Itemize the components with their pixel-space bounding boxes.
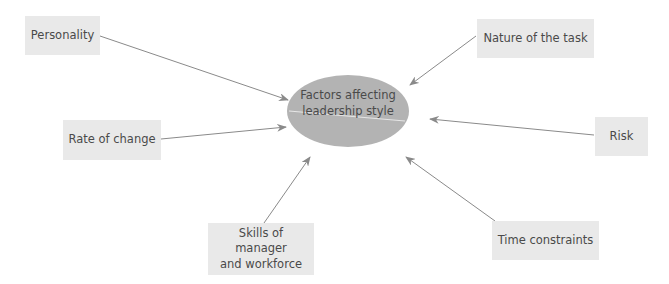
- center-label-line2: leadership style: [298, 104, 398, 120]
- factor-label-line2: and workforce: [220, 257, 302, 273]
- arrow-time-constraints: [406, 157, 495, 221]
- factor-label: Nature of the task: [483, 31, 587, 47]
- center-label-line1: Factors affecting: [298, 88, 398, 104]
- center-label: Factors affecting leadership style: [298, 88, 398, 119]
- arrow-skills: [264, 157, 310, 223]
- arrow-personality: [100, 36, 288, 100]
- factor-label: Risk: [610, 129, 634, 145]
- factor-personality: Personality: [25, 16, 100, 55]
- factor-skills: Skills of manager and workforce: [208, 223, 314, 275]
- factor-label-line1: Skills of manager: [212, 226, 310, 257]
- factor-time-constraints: Time constraints: [492, 221, 599, 260]
- factor-label: Time constraints: [498, 233, 594, 249]
- factor-nature-of-task: Nature of the task: [477, 19, 594, 58]
- arrow-rate-of-change: [161, 127, 286, 139]
- arrow-risk: [430, 119, 594, 135]
- arrow-nature-of-task: [410, 36, 476, 85]
- factor-rate-of-change: Rate of change: [63, 120, 161, 160]
- factor-risk: Risk: [595, 117, 648, 156]
- factor-label: Personality: [31, 28, 94, 44]
- factor-label: Rate of change: [68, 132, 155, 148]
